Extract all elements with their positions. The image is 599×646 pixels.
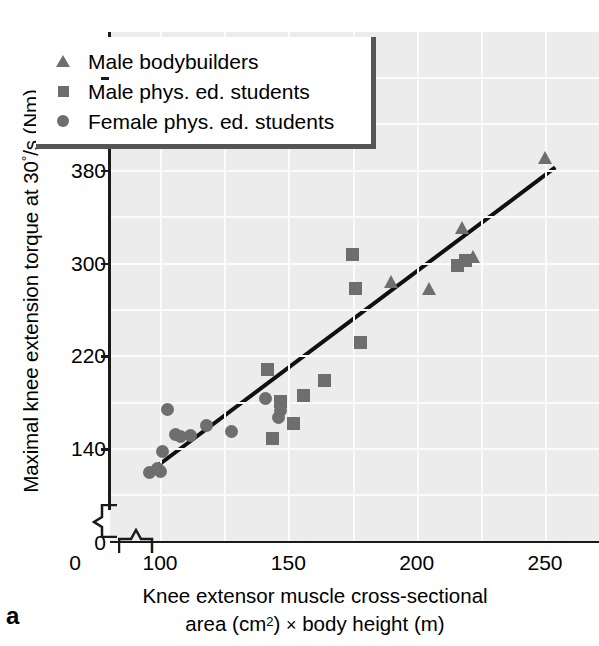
degree-symbol: ° [19, 156, 35, 162]
data-point-triangle [538, 151, 552, 164]
y-tick-label: 140 [60, 438, 106, 459]
x-tick-label: 100 [142, 552, 177, 573]
legend-item-male-bodybuilders: Male bodybuilders [50, 46, 361, 76]
gridline-horizontal [110, 355, 599, 357]
y-tick-mark [101, 448, 109, 451]
data-point-circle [154, 465, 167, 478]
data-point-triangle [455, 221, 469, 234]
data-point-square [346, 248, 359, 261]
triangle-marker-icon [50, 55, 76, 67]
y-axis-title-prefix: Maximal knee extension torque at 30 [19, 161, 42, 493]
x-axis-ticks: 0100150200250 [0, 552, 599, 582]
x-tick-label: 150 [271, 552, 306, 573]
legend-label: Male bodybuilders [76, 51, 258, 72]
data-point-square [354, 336, 367, 349]
legend: Male bodybuilders Male phys. ed. student… [36, 37, 371, 144]
data-point-square [459, 254, 472, 267]
x-axis-line [110, 541, 599, 543]
x-axis-title: Knee extensor muscle cross-sectional are… [60, 583, 570, 638]
x-tick-label: 200 [399, 552, 434, 573]
x-axis-title-line2: area (cm2) × body height (m) [60, 609, 570, 638]
data-point-triangle [422, 282, 436, 295]
data-point-square [318, 374, 331, 387]
data-point-triangle [384, 275, 398, 288]
data-point-square [297, 389, 310, 402]
gridline-horizontal [110, 448, 599, 450]
x-axis-break-icon [118, 528, 154, 554]
y-tick-mark [101, 170, 109, 173]
x-axis-title-line1: Knee extensor muscle cross-sectional [60, 583, 570, 609]
y-tick-mark [101, 263, 109, 266]
square-marker-icon [50, 86, 76, 97]
data-point-square [266, 432, 279, 445]
y-axis-break-icon [92, 504, 118, 538]
data-point-square [349, 282, 362, 295]
x-axis-title-area: area (cm [185, 612, 266, 635]
gridline-horizontal [110, 170, 599, 172]
x-axis-title-height: body height (m) [297, 612, 445, 635]
data-point-circle [156, 445, 169, 458]
legend-item-male-phys-ed-students: Male phys. ed. students [50, 76, 361, 106]
gridline-vertical [481, 32, 483, 542]
data-point-square [261, 363, 274, 376]
multiplication-icon: × [286, 615, 297, 635]
y-tick-label: 300 [60, 253, 106, 274]
chart-figure: Maximal knee extension torque at 30°/s (… [0, 0, 599, 646]
data-point-square [287, 417, 300, 430]
gridline-horizontal [110, 309, 599, 311]
legend-item-female-phys-ed-students: Female phys. ed. students [50, 106, 361, 136]
x-tick-label: 0 [69, 552, 81, 573]
gridline-vertical [545, 32, 547, 542]
gridline-horizontal [110, 402, 599, 404]
circle-marker-icon [50, 115, 76, 127]
legend-label: Male phys. ed. students [76, 81, 310, 102]
gridline-horizontal [110, 216, 599, 218]
data-point-circle [184, 429, 197, 442]
x-tick-label: 250 [527, 552, 562, 573]
y-tick-label: 380 [60, 160, 106, 181]
x-axis-title-paren: ) [273, 612, 286, 635]
y-tick-label: 220 [60, 345, 106, 366]
legend-label: Female phys. ed. students [76, 111, 334, 132]
gridline-vertical [417, 32, 419, 542]
gridline-horizontal [110, 263, 599, 265]
gridline-horizontal [110, 494, 599, 496]
y-tick-mark [101, 355, 109, 358]
y-tick-mark [101, 77, 109, 80]
panel-label: a [6, 604, 19, 628]
data-point-circle [259, 392, 272, 405]
